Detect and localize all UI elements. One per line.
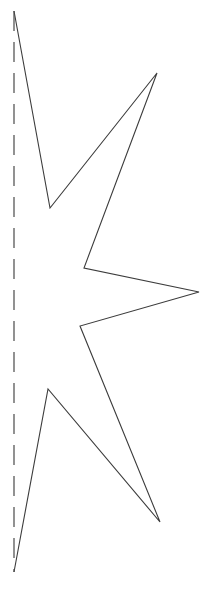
figure-canvas [0, 0, 203, 604]
star-half-outline-path [14, 11, 199, 572]
half-star-figure [0, 0, 203, 604]
